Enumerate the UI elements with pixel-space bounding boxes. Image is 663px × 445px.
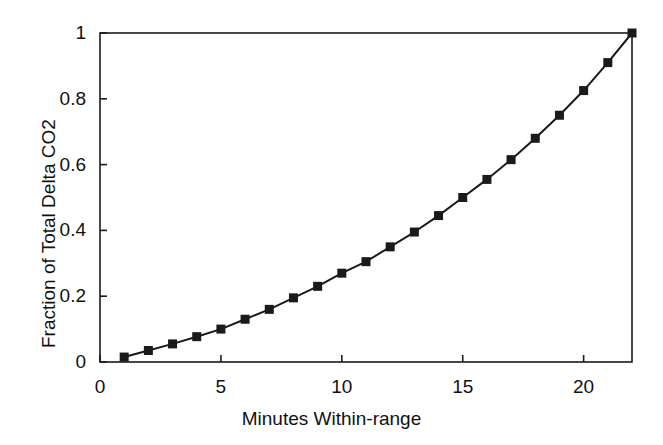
data-point-marker: [628, 29, 637, 38]
data-point-marker: [362, 257, 371, 266]
x-axis-tick-label: 5: [216, 376, 227, 398]
x-axis-label: Minutes Within-range: [0, 408, 663, 430]
data-point-marker: [192, 332, 201, 341]
data-series-line: [124, 33, 632, 357]
data-point-marker: [579, 86, 588, 95]
data-point-marker: [458, 193, 467, 202]
data-point-marker: [120, 353, 129, 362]
y-axis-tick-label: 0: [30, 351, 86, 373]
data-point-marker: [410, 228, 419, 237]
x-axis-tick-label: 15: [452, 376, 473, 398]
data-point-marker: [531, 134, 540, 143]
y-axis-tick-label: 0.2: [30, 285, 86, 307]
data-point-marker: [289, 293, 298, 302]
y-axis-tick-label: 0.8: [30, 88, 86, 110]
data-point-marker: [168, 339, 177, 348]
data-point-marker: [482, 175, 491, 184]
y-axis-tick-label: 0.6: [30, 154, 86, 176]
data-point-marker: [555, 111, 564, 120]
data-point-marker: [434, 211, 443, 220]
data-series-markers: [120, 29, 637, 362]
data-point-marker: [216, 325, 225, 334]
y-axis-tick-label: 0.4: [30, 219, 86, 241]
y-axis-tick-label: 1: [30, 22, 86, 44]
data-point-marker: [241, 315, 250, 324]
data-point-marker: [265, 305, 274, 314]
x-axis-tick-label: 10: [331, 376, 352, 398]
data-point-marker: [603, 58, 612, 67]
data-point-marker: [386, 242, 395, 251]
x-axis-tick-label: 20: [573, 376, 594, 398]
chart-figure: Fraction of Total Delta CO2 Minutes With…: [0, 0, 663, 445]
y-axis-label-container: Fraction of Total Delta CO2: [0, 0, 46, 362]
data-point-marker: [507, 155, 516, 164]
data-point-marker: [313, 282, 322, 291]
axis-tick-marks: [100, 33, 584, 362]
data-point-marker: [144, 346, 153, 355]
plot-frame: [100, 33, 632, 362]
x-axis-tick-label: 0: [95, 376, 106, 398]
data-point-marker: [337, 269, 346, 278]
